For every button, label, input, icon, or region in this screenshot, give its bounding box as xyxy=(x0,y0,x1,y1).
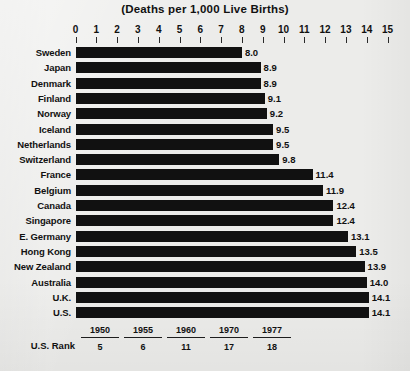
x-tick-mark xyxy=(346,37,347,43)
rank-year-header: 1977 xyxy=(253,325,291,338)
x-tick-mark xyxy=(200,37,201,43)
x-tick-label: 14 xyxy=(361,24,372,35)
x-tick-mark xyxy=(304,37,305,43)
bar-value-label: 11.9 xyxy=(326,185,344,197)
bar xyxy=(76,93,265,104)
x-tick-label: 6 xyxy=(198,24,204,35)
x-tick-label: 5 xyxy=(177,24,183,35)
x-tick-label: 13 xyxy=(340,24,351,35)
rank-year-header: 1955 xyxy=(124,325,162,338)
category-label: Norway xyxy=(0,108,71,120)
category-label: Hong Kong xyxy=(0,246,71,258)
x-tick-mark xyxy=(180,37,181,43)
x-tick-label: 7 xyxy=(218,24,224,35)
category-label: Switzerland xyxy=(0,154,71,166)
chart-title: (Deaths per 1,000 Live Births) xyxy=(0,3,410,15)
x-tick-mark xyxy=(221,37,222,43)
plot-area: Sweden8.0Japan8.9Denmark8.9Finland9.1Nor… xyxy=(0,46,410,320)
rank-column: 19556 xyxy=(124,325,162,353)
rank-value: 18 xyxy=(253,341,291,353)
rank-value: 6 xyxy=(124,341,162,353)
bar-value-label: 11.4 xyxy=(316,169,334,181)
rank-year-header: 1950 xyxy=(81,325,119,338)
category-label: France xyxy=(0,169,71,181)
bar-value-label: 12.4 xyxy=(336,200,355,212)
bar xyxy=(76,185,324,196)
x-tick-mark xyxy=(117,37,118,43)
bar xyxy=(76,78,261,89)
x-tick-mark xyxy=(159,37,160,43)
chart-row: E. Germany13.1 xyxy=(0,230,410,246)
x-tick-label: 0 xyxy=(73,24,79,35)
rank-year-header: 1960 xyxy=(167,325,205,338)
bar-value-label: 13.5 xyxy=(359,246,378,258)
rank-column: 197718 xyxy=(253,325,291,353)
x-tick-label: 15 xyxy=(382,24,393,35)
bar-value-label: 13.9 xyxy=(368,261,387,273)
chart-row: Sweden8.0 xyxy=(0,46,410,62)
x-tick-mark xyxy=(138,37,139,43)
bar xyxy=(76,47,242,58)
x-tick-label: 11 xyxy=(299,24,310,35)
x-tick-label: 12 xyxy=(320,24,331,35)
bar xyxy=(76,246,357,257)
bar-value-label: 9.5 xyxy=(276,139,289,151)
rank-column: 197017 xyxy=(210,325,248,353)
category-label: Netherlands xyxy=(0,139,71,151)
chart-row: Japan8.9 xyxy=(0,61,410,77)
x-tick-label: 4 xyxy=(156,24,162,35)
x-tick-label: 1 xyxy=(94,24,100,35)
bar xyxy=(76,231,348,242)
x-tick-label: 3 xyxy=(135,24,141,35)
bar-value-label: 9.5 xyxy=(276,124,289,136)
x-tick-mark xyxy=(388,37,389,43)
category-label: Denmark xyxy=(0,78,71,90)
x-tick-label: 8 xyxy=(239,24,245,35)
category-label: U.K. xyxy=(0,292,71,304)
x-tick-mark xyxy=(325,37,326,43)
category-label: E. Germany xyxy=(0,231,71,243)
rank-value: 5 xyxy=(81,341,119,353)
bar-value-label: 14.0 xyxy=(370,277,389,289)
infant-mortality-bar-chart: (Deaths per 1,000 Live Births) 012345678… xyxy=(0,0,410,371)
category-label: Sweden xyxy=(0,47,71,59)
chart-row: Hong Kong13.5 xyxy=(0,245,410,261)
rank-column: 196011 xyxy=(167,325,205,353)
x-tick-mark xyxy=(76,37,77,43)
chart-row: Switzerland9.8 xyxy=(0,153,410,169)
chart-row: Belgium11.9 xyxy=(0,184,410,200)
chart-row: Canada12.4 xyxy=(0,199,410,215)
chart-row: Australia14.0 xyxy=(0,276,410,292)
us-rank-table: U.S. Rank 1950519556196011197017197718 xyxy=(0,325,410,357)
category-label: Canada xyxy=(0,200,71,212)
chart-row: Norway9.2 xyxy=(0,107,410,123)
x-tick-mark xyxy=(367,37,368,43)
chart-row: Iceland9.5 xyxy=(0,123,410,139)
bar-value-label: 8.9 xyxy=(264,62,277,74)
rank-value: 11 xyxy=(167,341,205,353)
bar xyxy=(76,169,313,180)
category-label: Iceland xyxy=(0,124,71,136)
x-axis: 0123456789101112131415 xyxy=(0,24,410,46)
x-tick-label: 2 xyxy=(114,24,120,35)
bar xyxy=(76,139,274,150)
bar-value-label: 13.1 xyxy=(351,231,370,243)
category-label: Belgium xyxy=(0,185,71,197)
category-label: Australia xyxy=(0,277,71,289)
bar-value-label: 9.8 xyxy=(282,154,295,166)
chart-row: New Zealand13.9 xyxy=(0,260,410,276)
bar-value-label: 14.1 xyxy=(372,292,391,304)
x-tick-mark xyxy=(96,37,97,43)
bar-value-label: 9.1 xyxy=(268,93,281,105)
x-tick-mark xyxy=(284,37,285,43)
category-label: Finland xyxy=(0,93,71,105)
bar-value-label: 9.2 xyxy=(270,108,283,120)
bar xyxy=(76,108,267,119)
chart-row: Denmark8.9 xyxy=(0,77,410,93)
bar xyxy=(76,307,369,318)
x-tick-mark xyxy=(263,37,264,43)
bar xyxy=(76,215,334,226)
chart-row: U.S.14.1 xyxy=(0,306,410,322)
x-tick-mark xyxy=(242,37,243,43)
bar-value-label: 8.9 xyxy=(264,78,277,90)
